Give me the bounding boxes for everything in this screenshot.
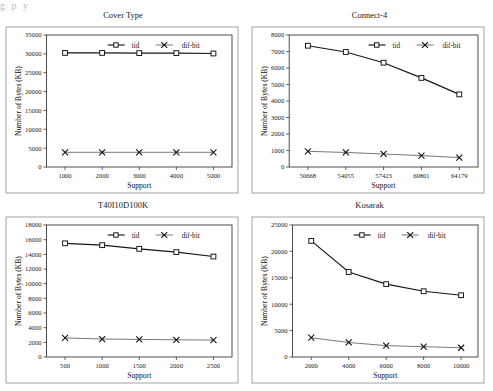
y-tick-label: 0 (38, 163, 42, 170)
chart-panel-cover-type: Cover Type 05000100001500020000250003000… (0, 10, 246, 200)
y-tick-label: 12000 (25, 265, 42, 272)
x-tick-label: 3000 (133, 172, 147, 179)
plot-frame (252, 27, 484, 193)
chart-title: Cover Type (0, 10, 246, 23)
plot-axes-box (293, 225, 479, 357)
plot-area: 0200040006000800010000120001400016000180… (0, 213, 246, 389)
data-point-tid (174, 51, 179, 56)
data-point-tid (419, 76, 424, 81)
series-line-tid (311, 241, 461, 295)
x-tick-label: 1000 (58, 172, 72, 179)
x-tick-label: 2500 (207, 362, 221, 369)
x-tick-label: 4000 (170, 172, 184, 179)
x-tick-label: 10000 (453, 362, 470, 369)
x-axis-title: Support (372, 181, 397, 190)
chart-svg: 0200040006000800010000120001400016000180… (0, 213, 244, 389)
chart-panel-kosarak: Kosarak 05000100001500020000250002000400… (246, 200, 493, 391)
y-tick-label: 16000 (25, 236, 42, 243)
x-tick-label: 50668 (300, 172, 317, 179)
data-point-tid (381, 60, 386, 65)
legend-marker-tid (114, 43, 118, 47)
y-tick-label: 15000 (25, 107, 42, 114)
chart-legend: tiddif-bit (354, 232, 446, 240)
y-tick-label: 14000 (25, 251, 42, 258)
y-axis-title: Number of Bytes (KB) (260, 66, 269, 136)
data-point-tid (174, 250, 179, 255)
y-tick-label: 10000 (25, 126, 42, 133)
data-point-tid (63, 51, 68, 56)
data-point-tid (421, 289, 426, 294)
y-tick-label: 8000 (271, 31, 285, 38)
y-tick-label: 15000 (271, 274, 288, 281)
data-point-tid (137, 246, 142, 251)
y-tick-label: 0 (38, 353, 42, 360)
y-tick-label: 0 (281, 163, 285, 170)
x-tick-label: 57423 (375, 172, 392, 179)
plot-area: 0500010000150002000025000200040006000800… (246, 213, 493, 389)
y-tick-label: 25000 (271, 221, 288, 228)
chart-legend: tiddif-bit (108, 42, 200, 50)
y-tick-label: 0 (284, 353, 288, 360)
legend-label-tid: tid (392, 42, 400, 50)
y-tick-label: 18000 (25, 221, 42, 228)
data-point-tid (211, 254, 216, 259)
x-tick-label: 64179 (451, 172, 468, 179)
y-tick-label: 10000 (271, 301, 288, 308)
plot-axes-box (289, 35, 478, 167)
data-point-tid (100, 243, 105, 248)
x-tick-label: 5000 (207, 172, 221, 179)
chart-legend: tiddif-bit (108, 232, 200, 240)
x-tick-label: 60801 (413, 172, 429, 179)
x-axis-title: Support (127, 371, 152, 380)
legend-label-tid: tid (132, 42, 140, 50)
y-tick-label: 4000 (28, 324, 42, 331)
y-tick-label: 1000 (271, 147, 285, 154)
data-point-tid (343, 50, 348, 55)
y-tick-label: 30000 (25, 50, 42, 57)
data-point-tid (459, 293, 464, 298)
x-tick-label: 54055 (338, 172, 355, 179)
y-tick-label: 4000 (271, 97, 285, 104)
plot-area: 0500010000150002000025000300003500010002… (0, 23, 246, 199)
chart-svg: 0500010000150002000025000300003500010002… (0, 23, 244, 199)
legend-label-tid: tid (378, 232, 386, 240)
data-point-tid (63, 241, 68, 246)
x-tick-label: 4000 (342, 362, 356, 369)
figure-page: g p y Cover Type 05000100001500020000250… (0, 0, 493, 391)
chart-svg: 0500010000150002000025000200040006000800… (246, 213, 490, 389)
y-axis-title: Number of Bytes (KB) (260, 256, 269, 326)
plot-axes-box (47, 225, 233, 357)
y-tick-label: 10000 (25, 280, 42, 287)
x-axis-title: Support (373, 371, 398, 380)
data-point-tid (137, 51, 142, 56)
data-point-tid (211, 51, 216, 56)
y-axis-title: Number of Bytes (KB) (14, 66, 23, 136)
x-tick-label: 1000 (96, 362, 110, 369)
x-tick-label: 6000 (380, 362, 394, 369)
y-tick-label: 2000 (28, 339, 42, 346)
legend-label-tid: tid (132, 232, 140, 240)
y-tick-label: 2000 (271, 130, 285, 137)
chart-panel-connect-4: Connect-4 010002000300040005000600070008… (246, 10, 493, 200)
x-tick-label: 1500 (133, 362, 147, 369)
chart-grid: Cover Type 05000100001500020000250003000… (0, 10, 493, 391)
chart-title: T40I10D100K (0, 200, 246, 213)
x-tick-label: 500 (60, 362, 71, 369)
legend-marker-tid (114, 233, 118, 237)
x-tick-label: 2000 (305, 362, 319, 369)
y-tick-label: 7000 (271, 48, 285, 55)
y-tick-label: 8000 (28, 295, 42, 302)
legend-marker-tid (374, 43, 378, 47)
y-tick-label: 6000 (271, 64, 285, 71)
data-point-tid (384, 282, 389, 287)
plot-area: 0100020003000400050006000700080005066854… (246, 23, 493, 199)
legend-label-dif-bit: dif-bit (182, 232, 200, 240)
legend-label-dif-bit: dif-bit (428, 232, 446, 240)
y-tick-label: 6000 (28, 309, 42, 316)
y-tick-label: 20000 (25, 88, 42, 95)
chart-panel-t40i10d100k: T40I10D100K 0200040006000800010000120001… (0, 200, 246, 391)
series-line-tid (308, 46, 459, 95)
y-tick-label: 5000 (28, 145, 42, 152)
y-axis-title: Number of Bytes (KB) (14, 256, 23, 326)
data-point-tid (305, 43, 310, 48)
